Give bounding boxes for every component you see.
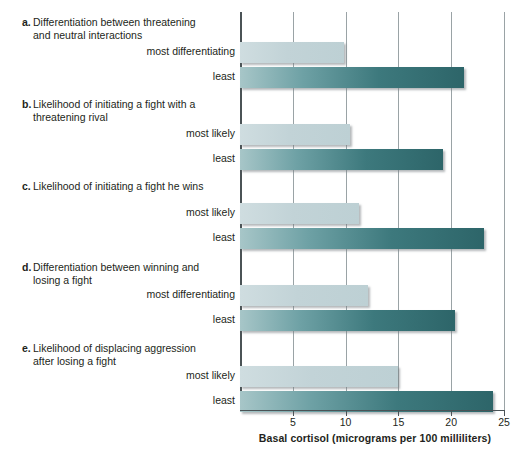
x-axis-line (240, 410, 505, 411)
panel-b-letter: b. (22, 98, 31, 111)
panel-a-bar-1 (240, 42, 344, 63)
panel-c-category-1: most likely (35, 206, 235, 218)
panel-a-bar-2 (240, 67, 464, 88)
panel-b-category-2: least (35, 152, 235, 164)
panel-b-bar-2 (240, 149, 443, 170)
panel-a-letter: a. (22, 16, 31, 29)
panel-a-category-2: least (35, 70, 235, 82)
panel-c-bar-2 (240, 228, 484, 249)
panel-d-title: Differentiation between winning and losi… (33, 261, 238, 286)
panel-a-category-1: most differentiating (35, 45, 235, 57)
x-axis-title: Basal cortisol (micrograms per 100 milli… (240, 432, 510, 444)
panel-c-title-line1: Likelihood of initiating a fight he wins (33, 180, 203, 192)
panel-a-title-line2: and neutral interactions (33, 29, 142, 41)
panel-e-title-line1: Likelihood of displacing aggression (33, 342, 196, 354)
panel-d-title-line2: losing a fight (33, 274, 92, 286)
panel-d-category-1: most differentiating (35, 288, 235, 300)
panel-e-bar-2 (240, 391, 493, 412)
panel-d-title-line1: Differentiation between winning and (33, 261, 199, 273)
panel-e-category-1: most likely (35, 369, 235, 381)
x-tick-label-5: 5 (278, 416, 308, 428)
panel-e-title-line2: after losing a fight (33, 355, 116, 367)
panel-a-title: Differentiation between threatening and … (33, 16, 238, 41)
panel-e-title: Likelihood of displacing aggression afte… (33, 342, 238, 367)
panel-c-bar-1 (240, 203, 359, 224)
panel-a-title-line1: Differentiation between threatening (33, 16, 196, 28)
x-tick-label-15: 15 (383, 416, 413, 428)
gridline-25 (504, 12, 505, 410)
panel-e-category-2: least (35, 394, 235, 406)
x-tick-label-10: 10 (331, 416, 361, 428)
panel-b-title-line1: Likelihood of initiating a fight with a (33, 98, 195, 110)
panel-d-category-2: least (35, 313, 235, 325)
panel-e-bar-1 (240, 366, 398, 387)
panel-d-letter: d. (22, 261, 31, 274)
panel-e-letter: e. (22, 342, 31, 355)
panel-c-title: Likelihood of initiating a fight he wins (33, 180, 238, 193)
panel-d-bar-1 (240, 285, 368, 306)
panel-c-category-2: least (35, 231, 235, 243)
panel-b-title: Likelihood of initiating a fight with a … (33, 98, 238, 123)
panel-b-bar-1 (240, 124, 350, 145)
x-tick-label-20: 20 (436, 416, 466, 428)
panel-d-bar-2 (240, 310, 455, 331)
x-tick-label-25: 25 (489, 416, 519, 428)
bar-chart-figure: a. Differentiation between threatening a… (0, 0, 525, 455)
panel-b-title-line2: threatening rival (33, 111, 108, 123)
panel-b-category-1: most likely (35, 127, 235, 139)
panel-c-letter: c. (22, 180, 31, 193)
